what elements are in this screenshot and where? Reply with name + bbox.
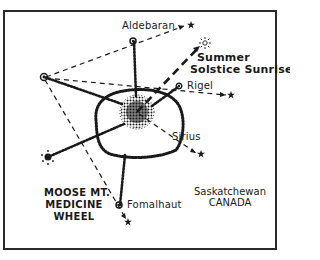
title-line-1: MOOSE MT.: [44, 187, 104, 199]
diagram-title: MOOSE MT. MEDICINE WHEEL: [44, 187, 104, 223]
arrow-rigel-icon: [220, 92, 226, 97]
location-province: Saskatchewan: [190, 186, 270, 197]
outer-cairns: [41, 38, 182, 208]
arrow-sirius-icon: [190, 148, 196, 153]
spoke-north: [134, 41, 136, 96]
location-label: Saskatchewan CANADA: [190, 186, 270, 208]
sun-icon: [199, 37, 211, 49]
label-sirius: Sirius: [172, 132, 201, 142]
cairn-rigel: [176, 83, 182, 89]
location-country: CANADA: [190, 197, 270, 208]
title-line-3: WHEEL: [44, 211, 104, 223]
label-fomalhaut: Fomalhaut: [127, 200, 182, 210]
label-solstice-sunrise: Solstice Sunrise: [190, 64, 290, 76]
star-icon: [124, 218, 132, 226]
label-aldebaran: Aldebaran: [122, 21, 175, 31]
cairn-southwest: [41, 150, 55, 165]
label-rigel: Rigel: [187, 81, 213, 91]
star-icon: [197, 150, 205, 158]
star-icon: [187, 21, 195, 29]
title-line-2: MEDICINE: [44, 199, 104, 211]
line-aldebaran: [46, 26, 184, 77]
spokes: [44, 41, 178, 205]
spoke-southwest: [48, 124, 124, 157]
spoke-south: [120, 155, 125, 205]
star-icon: [227, 91, 235, 99]
